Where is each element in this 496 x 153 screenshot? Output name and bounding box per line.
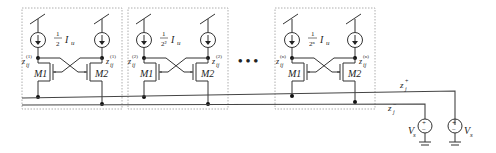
svg-text:u: u — [177, 39, 181, 47]
svg-text:ij: ij — [363, 62, 367, 68]
svg-text:1: 1 — [56, 30, 60, 38]
svg-text:(2): (2) — [216, 54, 222, 59]
svg-text:(1): (1) — [26, 54, 32, 59]
svg-text:u: u — [326, 39, 330, 47]
svg-text:j: j — [392, 109, 395, 115]
svg-text:u: u — [71, 39, 75, 47]
current-label: I — [64, 34, 69, 45]
m2-label: M2 — [200, 68, 214, 79]
svg-text:(n): (n) — [280, 54, 286, 59]
cell-2: M1 M2 1 2² I u z ij (2) z ij (2) — [127, 8, 228, 109]
voltage-source-icon: + − — [448, 119, 462, 145]
bus-plus-label: z — [399, 80, 404, 90]
m1-label: M1 — [33, 68, 47, 79]
current-source-icon — [201, 33, 216, 48]
svg-text:(n): (n) — [363, 54, 369, 59]
svg-text:2ⁿ: 2ⁿ — [309, 40, 316, 48]
svg-text:s: s — [413, 131, 416, 139]
cell-1: M1 M2 1 2 I u z ij (1) z ij (1) — [21, 8, 122, 109]
transistor-m2 — [343, 58, 355, 102]
svg-text:+: + — [405, 78, 409, 84]
svg-text:ij: ij — [216, 62, 220, 68]
bus-minus-label: z — [387, 103, 392, 113]
svg-text:ij: ij — [280, 62, 284, 68]
svg-text:−: − — [452, 126, 456, 134]
voltage-source-icon: + − — [418, 119, 432, 145]
svg-text:1: 1 — [311, 30, 315, 38]
current-label: I — [170, 34, 175, 45]
current-source-icon — [95, 33, 110, 48]
transistor-m2 — [196, 58, 208, 103]
current-source-icon — [285, 33, 300, 48]
svg-text:2²: 2² — [161, 40, 167, 48]
current-source-icon — [31, 33, 46, 48]
svg-text:(1): (1) — [110, 54, 116, 59]
svg-text:ij: ij — [110, 62, 114, 68]
bus-z-minus — [22, 104, 425, 119]
svg-text:s: s — [470, 131, 473, 139]
svg-text:−: − — [422, 126, 426, 134]
ellipsis: • • • — [238, 53, 259, 68]
m2-label: M2 — [94, 68, 108, 79]
m1-label: M1 — [287, 68, 301, 79]
svg-text:2: 2 — [56, 40, 60, 48]
m2-label: M2 — [347, 68, 361, 79]
svg-text:j: j — [404, 86, 407, 92]
circuit-diagram: M1 M2 1 2 I u z ij (1) z ij (1) — [0, 0, 496, 153]
svg-text:ij: ij — [132, 62, 136, 68]
current-source-icon — [348, 33, 363, 48]
svg-text:(2): (2) — [132, 54, 138, 59]
svg-text:1: 1 — [162, 30, 166, 38]
current-source-icon — [137, 33, 152, 48]
current-label: I — [319, 34, 324, 45]
m1-label: M1 — [139, 68, 153, 79]
svg-text:ij: ij — [26, 62, 30, 68]
